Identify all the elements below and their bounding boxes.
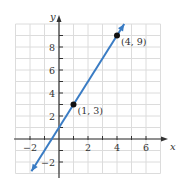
y-tick-label: 4 [49, 88, 55, 99]
data-point-label: (4, 9) [121, 36, 147, 47]
x-tick-label: 2 [85, 142, 91, 153]
y-tick-label: 6 [49, 65, 55, 76]
y-tick-label: 2 [49, 111, 55, 122]
x-axis-arrow-icon [161, 137, 168, 142]
x-tick-label: 4 [114, 142, 120, 153]
data-points: (1, 3)(4, 9) [71, 33, 147, 116]
y-axis-label: y [49, 11, 56, 22]
data-point-label: (1, 3) [78, 105, 104, 116]
y-tick-label: 8 [49, 42, 55, 53]
y-axis-arrow-icon [57, 15, 62, 22]
y-tick-label: −2 [41, 157, 55, 168]
line-segment [31, 24, 124, 171]
data-point-marker [114, 33, 120, 39]
x-axis-label: x [170, 141, 176, 152]
x-tick-label: 6 [143, 142, 149, 153]
plotted-line [31, 24, 124, 171]
x-tick-label: −2 [23, 142, 37, 153]
line-graph: −2246−22468 (1, 3)(4, 9) x y [0, 0, 182, 185]
data-point-marker [71, 102, 77, 108]
